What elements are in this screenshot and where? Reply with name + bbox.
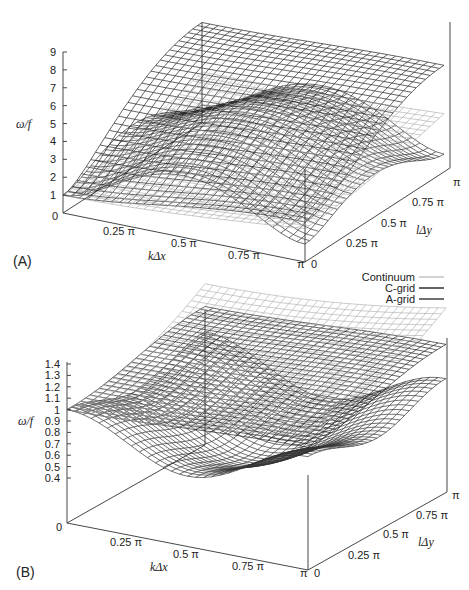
- y-tick-b-end: π: [452, 489, 460, 501]
- surfaces-a: [63, 23, 444, 245]
- y-tick-a-2: 0.5 π: [381, 217, 407, 229]
- x-tick-a-2: 0.5 π: [171, 237, 197, 249]
- z-tick-label: 6: [50, 100, 56, 112]
- y-tick-a-end: π: [453, 176, 461, 188]
- z-tick-label: 0.9: [45, 415, 60, 427]
- y-tick-b-0: 0: [314, 567, 320, 579]
- z-tick-label: 4: [50, 135, 56, 147]
- panel-a: 987654321 ω/f 0 0.25 π 0.5 π 0.75 π π kΔ…: [13, 22, 461, 270]
- origin-label-a: 0: [52, 210, 58, 222]
- z-axis-label-a: ω/f: [16, 117, 33, 131]
- figure: 987654321 ω/f 0 0.25 π 0.5 π 0.75 π π kΔ…: [0, 0, 469, 590]
- z-tick-label: 1.2: [45, 381, 60, 393]
- x-tick-a-end: π: [297, 258, 305, 270]
- y-tick-a-3: 0.75 π: [412, 196, 444, 208]
- surfaces-b: [67, 284, 446, 478]
- y-axis-label-a: lΔy: [416, 223, 432, 237]
- y-tick-a-1: 0.25 π: [346, 237, 378, 249]
- panel-b: 1.41.31.21.110.90.80.70.60.50.4 ω/f 0 0.…: [16, 284, 460, 580]
- x-axis-label-b: kΔx: [150, 560, 168, 574]
- y-tick-a-0: 0: [311, 258, 317, 270]
- z-tick-label: 9: [50, 46, 56, 58]
- x-tick-b-2: 0.5 π: [173, 548, 199, 560]
- z-tick-label: 1.1: [45, 392, 60, 404]
- z-tick-label: 1: [54, 404, 60, 416]
- x-tick-b-end: π: [300, 567, 308, 579]
- z-tick-label: 0.7: [45, 438, 60, 450]
- z-tick-label: 5: [50, 118, 56, 130]
- legend-label-a-grid: A-grid: [386, 293, 415, 305]
- legend: Continuum C-grid A-grid: [362, 271, 444, 305]
- z-axis-label-b: ω/f: [18, 414, 35, 428]
- y-tick-b-3: 0.75 π: [416, 509, 448, 521]
- z-ticks-a: 987654321: [50, 46, 67, 201]
- z-tick-label: 0.5: [45, 461, 60, 473]
- z-tick-label: 8: [50, 64, 56, 76]
- z-tick-label: 1: [50, 189, 56, 201]
- y-tick-b-1: 0.25 π: [348, 549, 380, 561]
- z-tick-label: 7: [50, 82, 56, 94]
- x-tick-b-3: 0.75 π: [232, 560, 264, 572]
- x-tick-b-1: 0.25 π: [110, 536, 142, 548]
- origin-label-b: 0: [56, 521, 62, 533]
- z-tick-label: 0.8: [45, 426, 60, 438]
- y-axis-label-b: lΔy: [418, 535, 434, 549]
- panel-label-b: (B): [16, 564, 35, 580]
- x-tick-a-1: 0.25 π: [103, 225, 135, 237]
- z-tick-label: 3: [50, 153, 56, 165]
- z-tick-label: 1.3: [45, 369, 60, 381]
- y-tick-b-2: 0.5 π: [383, 528, 409, 540]
- z-tick-label: 0.6: [45, 449, 60, 461]
- x-axis-label-a: kΔx: [148, 249, 166, 263]
- x-tick-a-3: 0.75 π: [228, 249, 260, 261]
- z-tick-label: 1.4: [45, 358, 60, 370]
- z-tick-label: 2: [50, 171, 56, 183]
- z-tick-label: 0.4: [45, 472, 60, 484]
- panel-label-a: (A): [13, 253, 32, 269]
